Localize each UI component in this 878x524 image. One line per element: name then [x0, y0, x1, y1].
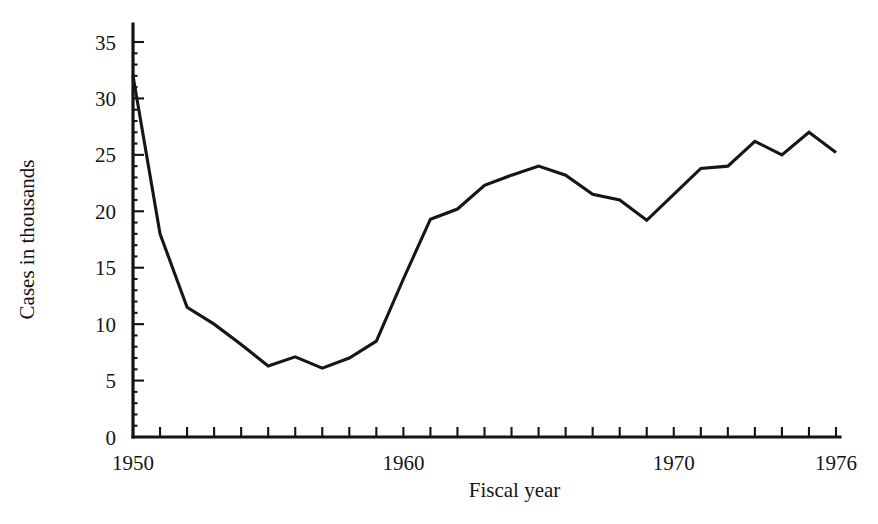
data-line-cases [133, 76, 836, 368]
y-axis-title: Cases in thousands [15, 160, 39, 320]
x-axis-tick-label: 1960 [382, 451, 424, 475]
y-axis-tick-label: 0 [106, 426, 117, 450]
x-axis-tick-label: 1970 [653, 451, 695, 475]
y-axis-tick-label: 15 [95, 256, 116, 280]
x-axis-tick-labels: 1950196019701976 [112, 451, 857, 475]
data-series-cases [133, 76, 836, 368]
x-axis-title: Fiscal year [469, 478, 561, 502]
y-axis-tick-label: 30 [95, 87, 116, 111]
y-axis-tick-label: 25 [95, 143, 116, 167]
chart-canvas: 05101520253035 1950196019701976 Fiscal y… [0, 0, 878, 524]
y-axis-tick-label: 35 [95, 31, 116, 55]
y-axis-tick-label: 10 [95, 313, 116, 337]
y-axis-tick-label: 5 [106, 369, 117, 393]
x-axis-tick-label: 1950 [112, 451, 154, 475]
line-chart: 05101520253035 1950196019701976 Fiscal y… [0, 0, 878, 524]
y-axis-tick-label: 20 [95, 200, 116, 224]
y-axis-tick-labels: 05101520253035 [95, 31, 116, 450]
x-axis-tick-label: 1976 [815, 451, 857, 475]
